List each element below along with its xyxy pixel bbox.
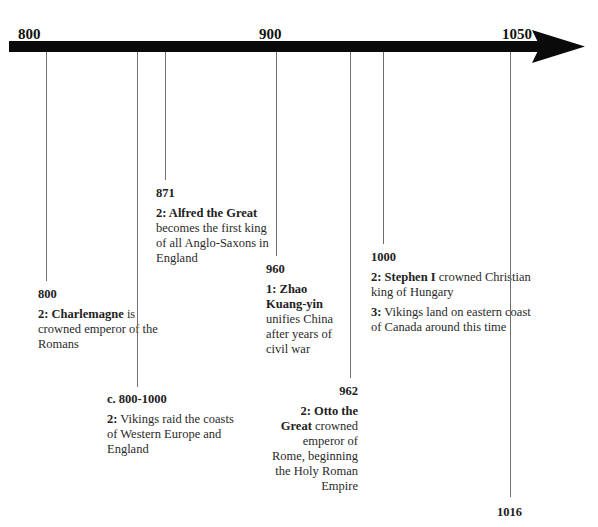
timeline-event: 1016 — [497, 505, 557, 525]
timeline-event: 9622: Otto the Great crowned emperor of … — [270, 384, 358, 499]
timeline-event: 9601: Zhao Kuang-yin unifies China after… — [266, 262, 346, 362]
event-year: 960 — [266, 262, 346, 277]
event-year: 871 — [156, 186, 276, 201]
event-year: 800 — [38, 287, 168, 302]
event-heading: 2: — [107, 412, 117, 426]
event-year: 962 — [270, 384, 358, 399]
event-connector-line — [510, 52, 511, 497]
event-year: 1000 — [371, 250, 541, 265]
event-description: 2: Stephen I crowned Christian king of H… — [371, 270, 541, 300]
timeline-event: c. 800-10002: Vikings raid the coasts of… — [107, 392, 237, 462]
timeline-event: 8002: Charlemagne is crowned emperor of … — [38, 287, 168, 357]
event-heading: 3: — [371, 305, 381, 319]
event-year: 1016 — [497, 505, 557, 520]
arrow-right-icon — [532, 30, 588, 63]
event-text: becomes the first king of all Anglo-Saxo… — [156, 221, 269, 265]
event-description: 2: Alfred the Great becomes the first ki… — [156, 206, 276, 266]
event-heading: 1: Zhao Kuang-yin — [266, 282, 323, 311]
event-connector-line — [46, 52, 47, 281]
event-description: 2: Charlemagne is crowned emperor of the… — [38, 307, 168, 352]
event-connector-line — [137, 52, 138, 387]
event-description: 1: Zhao Kuang-yin unifies China after ye… — [266, 282, 346, 357]
timeline-event: 10002: Stephen I crowned Christian king … — [371, 250, 541, 340]
event-description: 3: Vikings land on eastern coast of Cana… — [371, 305, 541, 335]
event-heading: 2: Stephen I — [371, 270, 436, 284]
event-text: Vikings land on eastern coast of Canada … — [371, 305, 531, 334]
event-description: 2: Otto the Great crowned emperor of Rom… — [270, 404, 358, 494]
event-heading: 2: Alfred the Great — [156, 206, 257, 220]
timeline-bar — [9, 41, 544, 52]
event-text: Vikings raid the coasts of Western Europ… — [107, 412, 234, 456]
event-connector-line — [350, 52, 351, 378]
event-connector-line — [165, 52, 166, 180]
timeline-event: 8712: Alfred the Great becomes the first… — [156, 186, 276, 271]
event-description: 2: Vikings raid the coasts of Western Eu… — [107, 412, 237, 457]
event-heading: 2: Charlemagne — [38, 307, 124, 321]
event-year: c. 800-1000 — [107, 392, 237, 407]
event-connector-line — [383, 52, 384, 244]
event-text: unifies China after years of civil war — [266, 312, 333, 356]
event-connector-line — [276, 52, 277, 256]
